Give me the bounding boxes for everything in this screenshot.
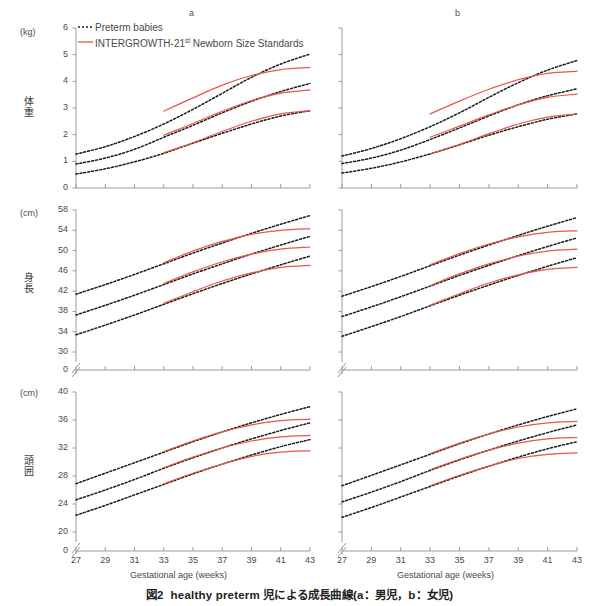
y-tick-label: 32 [44,442,68,452]
y-tick-label: 6 [44,22,68,32]
y-tick-label: 1 [44,155,68,165]
y-tick-label: 3 [44,102,68,112]
unit-length: (cm) [20,208,38,218]
y-tick-label: 58 [44,204,68,214]
y-tick-label: 54 [44,224,68,234]
x-tick-label: 43 [568,555,586,565]
y-tick-label-zero: 0 [44,545,68,555]
unit-head: (cm) [20,388,38,398]
y-tick-label: 2 [44,129,68,139]
y-tick-label: 40 [44,386,68,396]
x-tick-label: 35 [184,555,202,565]
x-tick-label: 27 [67,555,85,565]
y-tick-label: 34 [44,326,68,336]
x-tick-label: 29 [362,555,380,565]
y-tick-label: 20 [44,526,68,536]
y-tick-label: 46 [44,265,68,275]
y-tick-label: 30 [44,346,68,356]
x-tick-label: 33 [155,555,173,565]
y-tick-label: 38 [44,305,68,315]
unit-weight: (kg) [20,27,36,37]
y-tick-label: 50 [44,245,68,255]
y-tick-label: 42 [44,285,68,295]
x-tick-label: 35 [451,555,469,565]
x-tick-label: 41 [272,555,290,565]
x-tick-label: 37 [213,555,231,565]
legend-label-intergrowth: INTERGROWTH-21st Newborn Size Standards [95,37,303,49]
axis-label-weight: 体重 [23,96,35,118]
x-tick-label: 39 [509,555,527,565]
x-tick-label: 39 [243,555,261,565]
axis-label-length: 身長 [23,272,35,294]
axis-label-head: 頭囲 [23,455,35,477]
x-axis-title-a: Gestational age (weeks) [130,570,227,580]
x-tick-label: 27 [333,555,351,565]
y-tick-label: 5 [44,49,68,59]
x-tick-label: 31 [126,555,144,565]
y-tick-label-zero: 0 [44,364,68,374]
figure-caption: 図2healthy preterm 児による成長曲線(a：男児，b：女児) [0,586,599,602]
y-tick-label: 4 [44,75,68,85]
y-tick-label: 28 [44,470,68,480]
y-tick-label: 0 [44,182,68,192]
x-tick-label: 43 [301,555,319,565]
legend-label-preterm: Preterm babies [95,22,163,33]
y-tick-label: 24 [44,498,68,508]
panel-letter-b: b [455,8,460,18]
x-tick-label: 33 [421,555,439,565]
panel-letter-a: a [189,8,194,18]
x-axis-title-b: Gestational age (weeks) [397,570,494,580]
x-tick-label: 31 [392,555,410,565]
x-tick-label: 41 [539,555,557,565]
y-tick-label: 36 [44,414,68,424]
x-tick-label: 37 [480,555,498,565]
x-tick-label: 29 [96,555,114,565]
growth-curve-figure [0,0,599,606]
